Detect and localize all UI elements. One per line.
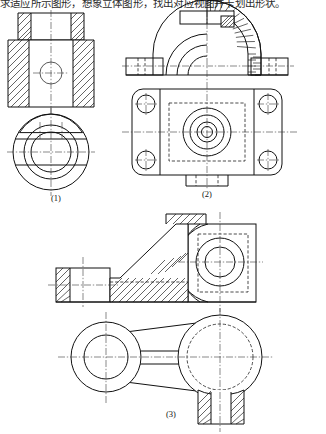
page-header-text: 求适应所示图形，想象立体图形，找出对应视图并卡划出形状。 <box>0 0 326 9</box>
drawing-page: 求适应所示图形，想象立体图形，找出对应视图并卡划出形状。 <box>0 0 326 434</box>
figure-3-front-section-view <box>48 212 263 312</box>
figure-3: (3) <box>48 212 306 434</box>
figure-1-front-section-view <box>8 10 94 113</box>
figure-2-drawing <box>122 10 326 200</box>
figure-1-drawing <box>0 10 120 200</box>
figure-1-top-view <box>7 108 95 196</box>
figure-2-front-half-section-view <box>122 0 294 82</box>
figure-2-top-view <box>122 82 298 190</box>
figure-1: (1) <box>0 10 120 200</box>
hatch-top-block <box>166 214 204 224</box>
figure-3-caption: (3) <box>151 410 191 419</box>
figure-2: (2) <box>122 10 326 200</box>
figure-1-caption: (1) <box>36 194 76 203</box>
figure-3-drawing <box>48 212 306 434</box>
figure-2-caption: (2) <box>187 190 227 199</box>
